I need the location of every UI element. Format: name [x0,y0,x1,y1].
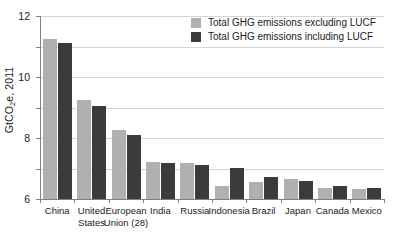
bar [43,39,57,199]
x-axis-category-label: Mexico [344,205,390,217]
y-axis-tick-label: 10 [18,71,30,83]
x-axis-tick-mark [212,199,213,203]
legend-label-excluding-lucf: Total GHG emissions excluding LUCF [208,17,376,28]
ghg-emissions-bar-chart: GtCO2e, 2011 024681012 ChinaUnited State… [0,0,393,247]
y-axis-tick-label: 6 [24,193,30,205]
y-axis-tick-mark: 2 [36,169,40,170]
bar [92,106,106,199]
y-axis-tick-mark: 12 [36,16,40,17]
y-axis-tick-label: 12 [18,10,30,22]
x-axis-tick-mark [384,199,385,203]
x-axis-tick-mark [40,199,41,203]
bar [333,186,347,199]
x-axis-tick-mark [246,199,247,203]
legend-item-including-lucf: Total GHG emissions including LUCF [191,30,376,43]
y-axis-tick-mark: 8 [36,77,40,78]
bar [215,186,229,199]
x-axis-tick-mark [315,199,316,203]
x-axis-tick-mark [143,199,144,203]
x-axis-tick-mark [281,199,282,203]
y-axis-tick-mark: 4 [36,138,40,139]
x-axis-tick-mark [350,199,351,203]
x-axis-tick-mark [178,199,179,203]
bar [195,165,209,199]
bar [264,177,278,199]
y-axis-tick-mark: 6 [36,108,40,109]
y-axis-title: GtCO2e, 2011 [2,0,16,200]
y-axis-title-suffix: e, 2011 [3,67,15,102]
y-axis-title-prefix: GtCO [3,106,15,133]
bar [127,135,141,199]
legend-swatch-icon-including-lucf [191,32,201,42]
x-axis-tick-mark [74,199,75,203]
legend-item-excluding-lucf: Total GHG emissions excluding LUCF [191,16,376,29]
bar [180,163,194,199]
bar [352,189,366,199]
bar [58,43,72,199]
bar [161,163,175,199]
legend-label-including-lucf: Total GHG emissions including LUCF [208,31,373,42]
bar-group [112,16,141,199]
bar-group [146,16,175,199]
bar [318,188,332,199]
y-axis-tick-label: 8 [24,132,30,144]
y-axis-title-subscript: 2 [8,102,17,106]
bar-group [43,16,72,199]
x-axis-tick-mark [109,199,110,203]
bar [112,130,126,199]
bar [230,168,244,199]
bar [299,181,313,199]
legend-swatch-icon-excluding-lucf [191,18,201,28]
y-axis-tick-mark: 10 [36,47,40,48]
bar [367,188,381,199]
bar-group [77,16,106,199]
legend: Total GHG emissions excluding LUCF Total… [191,16,376,44]
bar [249,182,263,199]
bar [146,162,160,199]
bar [284,179,298,199]
bar [77,100,91,199]
